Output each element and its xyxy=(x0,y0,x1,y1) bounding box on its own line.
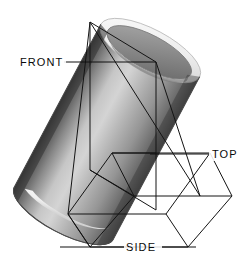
top-label-text: TOP xyxy=(212,148,238,160)
cylinder-projection-figure: FRONT TOP SIDE xyxy=(0,0,244,258)
label-front: FRONT xyxy=(17,54,66,69)
box-edge-bottom-right xyxy=(188,196,232,247)
side-label-text: SIDE xyxy=(126,241,156,253)
figure-canvas: FRONT TOP SIDE xyxy=(0,0,244,258)
box-edge-top-to-side-right xyxy=(166,153,210,214)
label-side: SIDE xyxy=(124,239,162,254)
front-label-text: FRONT xyxy=(20,56,63,68)
label-top: TOP xyxy=(209,146,241,161)
